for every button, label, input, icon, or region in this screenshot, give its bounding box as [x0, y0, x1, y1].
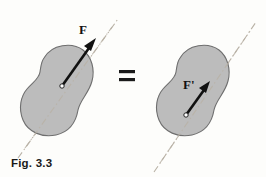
figure-container: F F' Fig. 3.3 — [0, 0, 266, 177]
figure-caption: Fig. 3.3 — [11, 157, 52, 169]
left-panel: F — [18, 19, 118, 158]
force-label-left: F — [79, 22, 87, 37]
right-panel: F' — [154, 22, 256, 172]
equals-bar-bottom — [119, 78, 135, 81]
force-vector-arrowhead-left — [84, 38, 96, 51]
equals-sign — [119, 70, 135, 81]
force-label-right: F' — [183, 77, 195, 92]
application-point-right — [184, 113, 188, 117]
figure-canvas: F F' Fig. 3.3 — [0, 0, 266, 177]
equals-bar-top — [119, 70, 135, 73]
application-point-left — [60, 84, 64, 88]
